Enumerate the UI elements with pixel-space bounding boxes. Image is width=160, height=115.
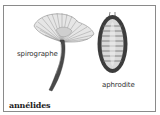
aphrodite-label: aphrodite <box>102 81 135 89</box>
aphrodite-illustration <box>98 12 128 73</box>
figure-title: annélides <box>9 100 50 110</box>
spirographe-label: spirographe <box>17 50 58 58</box>
